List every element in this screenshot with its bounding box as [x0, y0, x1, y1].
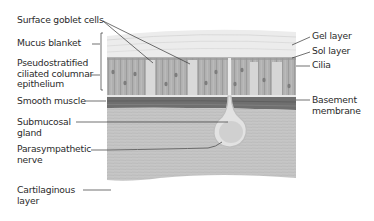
label-cilia: Cilia [312, 60, 331, 71]
epithelium-layer [107, 57, 296, 96]
label-line: layer [17, 196, 75, 207]
label-surface-goblet-cells: Surface goblet cells [17, 15, 104, 26]
label-line: Mucus blanket [17, 38, 81, 49]
label-line: Sol layer [312, 46, 350, 57]
label-line: Gel layer [312, 31, 352, 42]
label-line: gland [17, 128, 71, 139]
label-gel-layer: Gel layer [312, 31, 352, 42]
label-line: Submucosal [17, 117, 71, 128]
label-cartilaginous-layer: Cartilaginous layer [17, 185, 75, 206]
basement-membrane-layer [107, 95, 296, 97]
label-line: Pseudostratified [17, 58, 93, 69]
label-line: Cilia [312, 60, 331, 71]
label-line: membrane [312, 106, 361, 117]
label-line: Smooth muscle [17, 96, 86, 107]
label-parasympathetic-nerve: Parasympathetic nerve [17, 144, 91, 165]
label-line: Surface goblet cells [17, 15, 104, 26]
mucus-blanket-layer [107, 30, 296, 60]
label-line: Basement [312, 95, 361, 106]
label-line: epithelium [17, 79, 93, 90]
label-sol-layer: Sol layer [312, 46, 350, 57]
submucosa-layer [107, 108, 296, 181]
label-pseudostratified-epithelium: Pseudostratified ciliated columnar epith… [17, 58, 93, 90]
label-line: Cartilaginous [17, 185, 75, 196]
label-submucosal-gland: Submucosal gland [17, 117, 71, 138]
label-smooth-muscle: Smooth muscle [17, 96, 86, 107]
label-mucus-blanket: Mucus blanket [17, 38, 81, 49]
label-line: Parasympathetic [17, 144, 91, 155]
label-line: nerve [17, 155, 91, 166]
label-basement-membrane: Basement membrane [312, 95, 361, 116]
